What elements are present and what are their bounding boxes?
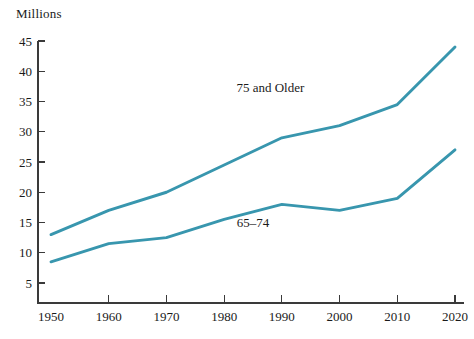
x-axis-tick-label: 2010 (384, 309, 410, 324)
chart-container: Millions 51015202530354045 1950196019701… (0, 0, 474, 339)
x-axis-tick-label: 1990 (269, 309, 295, 324)
series-label: 65–74 (237, 215, 270, 230)
y-axis-tick-marks (38, 41, 45, 283)
series-label: 75 and Older (236, 80, 305, 95)
data-series-line (51, 47, 455, 235)
y-axis-tick-labels: 51015202530354045 (19, 34, 32, 291)
line-chart-plot: 51015202530354045 1950196019701980199020… (0, 0, 474, 339)
x-axis-tick-label: 2020 (442, 309, 468, 324)
x-axis-tick-label: 2000 (327, 309, 353, 324)
x-axis-tick-label: 1950 (38, 309, 64, 324)
y-axis-tick-label: 10 (19, 245, 32, 260)
x-axis-tick-label: 1970 (153, 309, 179, 324)
y-axis-tick-label: 45 (19, 34, 32, 49)
x-axis-tick-labels: 19501960197019801990200020102020 (38, 309, 468, 324)
y-axis-tick-label: 35 (19, 94, 32, 109)
y-axis-tick-label: 30 (19, 124, 32, 139)
x-axis-tick-label: 1960 (96, 309, 122, 324)
y-axis-tick-label: 5 (26, 276, 33, 291)
data-series-line (51, 150, 455, 262)
y-axis-tick-label: 25 (19, 155, 32, 170)
x-axis-tick-marks (109, 295, 455, 303)
x-axis-tick-label: 1980 (211, 309, 237, 324)
y-axis-tick-label: 15 (19, 215, 32, 230)
y-axis-tick-label: 20 (19, 185, 32, 200)
y-axis-tick-label: 40 (19, 64, 32, 79)
